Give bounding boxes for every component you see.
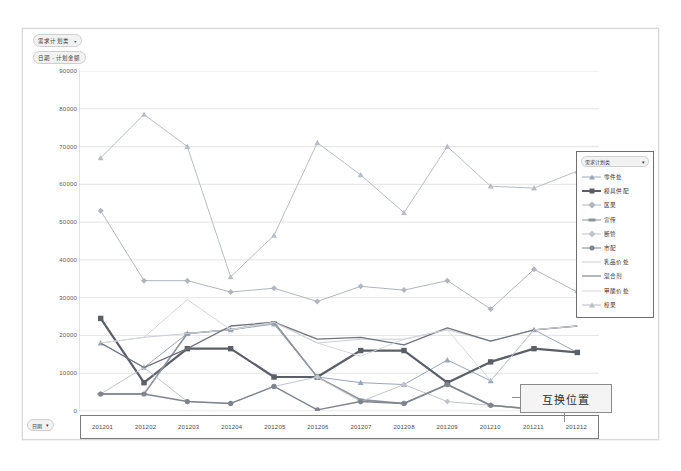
legend-item-0[interactable]: 零件处 [580, 170, 650, 184]
legend-item-6[interactable]: 乳品价处 [580, 255, 650, 269]
legend-marker-icon [589, 175, 595, 180]
data-point-marker [358, 283, 364, 289]
data-point-marker [271, 285, 277, 291]
legend-item-3[interactable]: 宣传 [580, 213, 650, 227]
x-axis-tick-label: 201204 [210, 424, 253, 430]
series-樟果[interactable] [98, 111, 581, 279]
legend-item-2[interactable]: 区果 [580, 198, 650, 212]
plot-area[interactable] [79, 71, 599, 411]
data-point-marker [98, 208, 104, 214]
legend-swatch-icon [582, 229, 601, 238]
y-axis-tick-label: 40000 [31, 257, 77, 263]
legend-item-label: 市配 [604, 244, 616, 252]
data-point-marker [444, 278, 450, 284]
x-axis-tick-label: 201201 [81, 424, 124, 430]
data-point-marker [315, 407, 320, 411]
data-point-marker [358, 172, 364, 177]
chart-legend[interactable]: 需求计划类 ▾ 零件处模具供配区果宣传断管市配乳品价处混合剂甲酸价处樟果 [576, 151, 654, 318]
x-axis-tick-label: 201205 [253, 424, 296, 430]
pivot-chart-frame[interactable]: 需求计划类 ▾ 日期 - 计划金额 0100002000030000400005… [22, 28, 659, 440]
legend-swatch-icon [582, 215, 601, 224]
legend-item-label: 断管 [604, 230, 616, 238]
chevron-down-icon: ▾ [74, 38, 77, 43]
data-point-marker [358, 399, 363, 404]
data-point-marker [445, 382, 450, 387]
data-point-marker [98, 391, 103, 396]
y-axis-tick-label: 0 [31, 408, 77, 414]
data-point-marker [271, 384, 276, 389]
series-模具供配[interactable] [98, 316, 580, 386]
data-point-marker [228, 401, 233, 406]
axis-field-filter-label: 日期 - 计划金额 [38, 54, 81, 62]
legend-item-4[interactable]: 断管 [580, 227, 650, 241]
x-axis-tick-label: 201210 [469, 424, 512, 430]
series-甲酸价处[interactable] [101, 300, 578, 381]
legend-swatch-icon [582, 201, 601, 210]
legend-swatch-icon [582, 286, 601, 295]
legend-item-label: 模具供配 [604, 187, 629, 195]
legend-item-9[interactable]: 樟果 [580, 298, 650, 312]
legend-swatch-icon [582, 272, 601, 281]
legend-item-label: 甲酸价处 [604, 287, 629, 295]
series-零件处[interactable] [98, 321, 581, 387]
y-axis-tick-label: 30000 [31, 295, 77, 301]
y-axis-tick-label: 70000 [31, 144, 77, 150]
chevron-down-icon: ▾ [642, 159, 645, 165]
x-axis-tick-label: 201212 [555, 424, 598, 430]
y-axis-tick-label: 20000 [31, 332, 77, 338]
data-point-marker [185, 399, 190, 404]
callout-box[interactable]: 互换位置 [520, 384, 612, 413]
data-point-marker [488, 403, 493, 408]
data-point-marker [531, 346, 536, 351]
data-point-marker [141, 278, 147, 284]
series-市配[interactable] [98, 382, 580, 411]
y-axis-tick-label: 50000 [31, 219, 77, 225]
legend-swatch-icon [582, 173, 601, 182]
legend-swatch-icon [582, 300, 601, 309]
legend-item-label: 乳品价处 [604, 258, 629, 266]
data-point-marker [141, 391, 146, 396]
chevron-down-icon: ▾ [46, 423, 49, 428]
x-axis-tick-label: 201208 [383, 424, 426, 430]
data-point-marker [98, 316, 103, 321]
x-axis-tick-label: 201207 [339, 424, 382, 430]
data-point-marker [271, 374, 276, 379]
data-point-marker [228, 346, 233, 351]
legend-swatch-icon [582, 244, 601, 253]
data-point-marker [444, 399, 450, 405]
legend-swatch-icon [582, 187, 601, 196]
legend-item-label: 混合剂 [604, 272, 623, 280]
x-axis-tick-label: 201209 [426, 424, 469, 430]
legend-item-7[interactable]: 混合剂 [580, 269, 650, 283]
chart-canvas [79, 71, 599, 411]
data-point-marker [401, 348, 406, 353]
legend-item-5[interactable]: 市配 [580, 241, 650, 255]
legend-item-label: 宣传 [604, 216, 616, 224]
x-axis-tick-label: 201206 [296, 424, 339, 430]
y-axis-tick-label: 10000 [31, 370, 77, 376]
legend-item-label: 樟果 [604, 301, 616, 309]
series-乳品价处[interactable] [101, 322, 578, 343]
legend-marker-icon [589, 302, 595, 307]
data-point-marker [271, 232, 277, 237]
series-field-filter-button[interactable]: 需求计划类 ▾ [33, 34, 82, 47]
legend-marker-icon [588, 218, 595, 221]
data-point-marker [314, 298, 320, 304]
series-field-filter-label: 需求计划类 [38, 37, 69, 45]
date-field-button[interactable]: 日期 ▾ [27, 419, 54, 431]
legend-item-8[interactable]: 甲酸价处 [580, 284, 650, 298]
data-point-marker [444, 357, 450, 362]
data-point-marker [141, 111, 147, 116]
y-axis-tick-label: 80000 [31, 106, 77, 112]
legend-item-1[interactable]: 模具供配 [580, 184, 650, 198]
screenshot-root: 需求计划类 ▾ 日期 - 计划金额 0100002000030000400005… [0, 0, 681, 471]
axis-field-filter-button[interactable]: 日期 - 计划金额 [33, 51, 86, 64]
x-axis-tick-label: 201211 [512, 424, 555, 430]
series-宣传[interactable] [97, 321, 580, 410]
legend-field-filter-button[interactable]: 需求计划类 ▾ [581, 156, 649, 167]
data-point-marker [228, 289, 234, 295]
x-axis-labels[interactable]: 2012012012022012032012042012052012062012… [80, 415, 599, 439]
callout-text: 互换位置 [542, 391, 590, 407]
data-point-marker [314, 140, 320, 145]
data-point-marker [141, 380, 146, 385]
